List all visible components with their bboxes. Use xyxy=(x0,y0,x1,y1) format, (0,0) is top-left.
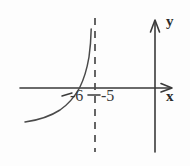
exponential-curve-path xyxy=(25,29,91,122)
x-axis-label: x xyxy=(166,89,174,104)
x-tick-label-minus6: -6 xyxy=(70,88,83,104)
graph-screenshot: -6 -5 y x xyxy=(0,0,190,166)
graph-canvas xyxy=(0,0,190,166)
x-tick-label-minus5: -5 xyxy=(101,88,114,104)
y-axis-label: y xyxy=(166,14,174,29)
